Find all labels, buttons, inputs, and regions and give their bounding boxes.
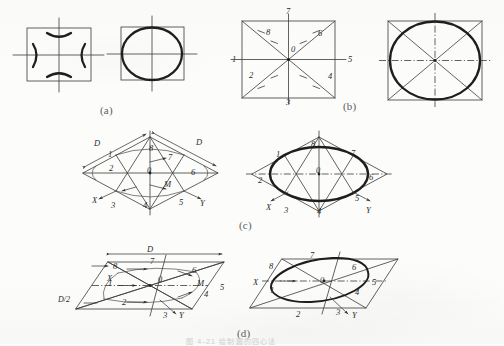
label-c-3: 3 xyxy=(110,200,115,210)
label-cr-Y: Y xyxy=(366,205,372,215)
label-dr-5: 5 xyxy=(372,277,376,287)
panel-b-right-ellipse-in-square xyxy=(379,13,492,107)
label-dr-X: X xyxy=(252,277,259,287)
figure-bottom-caption: 图 4-21 绘制圆的四心法 xyxy=(186,336,277,346)
label-d-D: D xyxy=(146,244,154,254)
label-dr-3: 3 xyxy=(335,307,340,317)
label-d-6: 6 xyxy=(192,265,197,275)
label-cr-X: X xyxy=(265,202,272,212)
label-b-3: 3 xyxy=(285,97,290,107)
label-c-1: 1 xyxy=(108,149,112,159)
label-d-M: M xyxy=(196,278,205,288)
label-b-0: 0 xyxy=(291,44,296,54)
label-d-3: 3 xyxy=(162,310,167,320)
label-c-5: 5 xyxy=(179,197,183,207)
label-b-4: 4 xyxy=(328,71,333,81)
label-cr-6: 6 xyxy=(369,172,374,182)
label-dr-8: 8 xyxy=(269,261,274,271)
label-c-8: 8 xyxy=(149,143,154,153)
panel-label-c: (c) xyxy=(239,219,252,231)
label-b-7: 7 xyxy=(286,6,291,16)
label-d-8: 8 xyxy=(113,261,118,271)
label-cr-1: 1 xyxy=(276,149,280,159)
label-b-1: 1 xyxy=(232,54,236,64)
label-d-5: 5 xyxy=(220,282,224,292)
label-dr-2: 2 xyxy=(296,309,301,319)
label-b-8: 8 xyxy=(266,27,271,37)
label-c-Y: Y xyxy=(200,198,206,208)
panel-a-right-circle-in-square xyxy=(107,16,197,91)
panel-label-b: (b) xyxy=(343,100,356,112)
panel-b-left-square-diagonals xyxy=(231,14,346,104)
label-d-Dhalf: D/2 xyxy=(57,295,70,304)
label-d-X: X xyxy=(106,273,113,283)
label-cr-5: 5 xyxy=(355,193,359,203)
label-c-D-right: D xyxy=(195,137,203,147)
panel-a-left-square-with-arcs xyxy=(13,18,104,92)
label-c-X: X xyxy=(91,195,98,205)
panel-label-a: (a) xyxy=(100,104,113,116)
label-d-4: 4 xyxy=(204,289,209,299)
label-c-2: 2 xyxy=(109,163,114,173)
label-d-7: 7 xyxy=(150,256,155,266)
label-d-0: 0 xyxy=(158,274,163,284)
label-dr-1: 1 xyxy=(270,285,274,295)
label-b-5: 5 xyxy=(348,54,352,64)
label-c-M: M xyxy=(163,179,172,189)
label-dr-6: 6 xyxy=(352,262,357,272)
label-c-6: 6 xyxy=(191,167,196,177)
label-dr-Y: Y xyxy=(352,310,358,320)
label-d-Y: Y xyxy=(179,310,185,320)
label-c-D-left: D xyxy=(93,138,101,148)
label-b-6: 6 xyxy=(318,28,323,38)
label-dr-7: 7 xyxy=(310,250,315,260)
label-c-7: 7 xyxy=(168,152,173,162)
label-b-2: 2 xyxy=(249,70,254,80)
label-cr-3: 3 xyxy=(283,205,288,215)
